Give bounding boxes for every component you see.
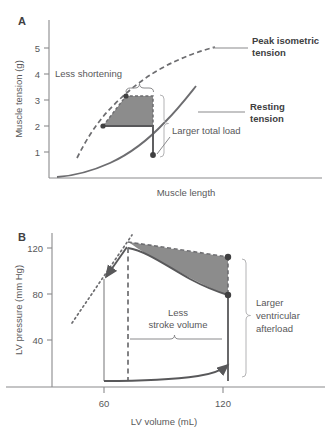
panel-a-chart: A 5 4 3 2 1 Muscle tension (g) Muscle le… [0, 0, 331, 215]
panel-b-tick-label-40: 40 [32, 335, 43, 346]
figure-container: A 5 4 3 2 1 Muscle tension (g) Muscle le… [0, 0, 331, 444]
panel-b-y-axis-title: LV pressure (mm Hg) [13, 265, 24, 355]
panel-b-x-axis-title: LV volume (mL) [131, 416, 197, 427]
panel-a-less-shortening-label: Less shortening [55, 68, 122, 79]
panel-a-peak-isometric-label-line1: Peak isometric [252, 35, 319, 46]
panel-a-tick-label-3: 3 [35, 95, 40, 106]
panel-a-shaded-work-area [103, 96, 153, 126]
panel-b-larger-afterload-bracket [242, 259, 251, 377]
panel-a-resting-tension-label-line2: tension [250, 113, 284, 124]
panel-b-larger-afterload-line3: afterload [256, 323, 293, 334]
panel-b-marker-control-end-systolic [225, 254, 231, 260]
panel-b: B 120 80 40 60 120 LV pressure (mm Hg) L… [0, 215, 331, 444]
panel-b-larger-afterload-line2: ventricular [256, 310, 300, 321]
panel-a-letter: A [18, 15, 26, 27]
panel-b-tick-label-120: 120 [27, 243, 43, 254]
panel-b-marker-new-end-systolic [225, 292, 231, 298]
panel-b-letter: B [18, 231, 26, 243]
panel-a-marker-afterload-start [100, 123, 105, 128]
panel-a-larger-total-load-label: Larger total load [172, 125, 241, 136]
panel-b-chart: B 120 80 40 60 120 LV pressure (mm Hg) L… [0, 215, 331, 444]
panel-a-tick-label-2: 2 [35, 121, 40, 132]
panel-a: A 5 4 3 2 1 Muscle tension (g) Muscle le… [0, 0, 331, 215]
panel-b-tick-label-80: 80 [32, 289, 43, 300]
panel-b-larger-afterload-line1: Larger [256, 297, 283, 308]
panel-a-tick-label-5: 5 [35, 43, 40, 54]
panel-a-tick-label-4: 4 [35, 69, 40, 80]
panel-b-shaded-lost-work-area [128, 242, 228, 295]
panel-b-less-stroke-volume-line2: stroke volume [148, 319, 207, 330]
panel-a-marker-total-load [150, 152, 156, 158]
panel-a-resting-tension-label-line1: Resting [250, 101, 285, 112]
panel-a-y-axis-title: Muscle tension (g) [13, 60, 24, 138]
panel-b-tick-label-120: 120 [215, 398, 231, 409]
panel-b-afterload-shift-arrow [106, 247, 127, 277]
panel-a-tick-label-1: 1 [35, 147, 40, 158]
panel-b-less-stroke-volume-bracket [130, 335, 222, 339]
panel-b-espvr-dotted-line [72, 235, 132, 323]
panel-a-x-axis-title: Muscle length [157, 187, 216, 198]
panel-b-diastolic-filling-limb [104, 365, 228, 381]
panel-b-less-stroke-volume-line1: Less [168, 307, 188, 318]
panel-a-marker-shortening-endpoint [123, 93, 128, 98]
panel-b-tick-label-60: 60 [99, 398, 110, 409]
panel-a-peak-isometric-label-line2: tension [252, 47, 286, 58]
